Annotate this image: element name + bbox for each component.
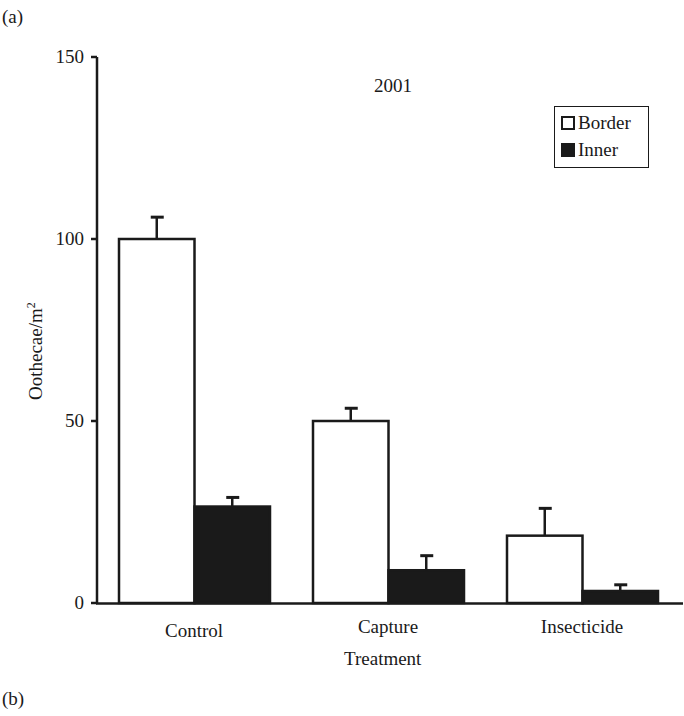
- bar-insecticide-border: [507, 536, 583, 603]
- legend-swatch-inner: [561, 143, 575, 157]
- legend-swatch-border: [561, 116, 575, 130]
- bar-capture-border: [313, 421, 389, 603]
- legend-label-border: Border: [578, 112, 631, 134]
- xtick-label-control: Control: [124, 620, 264, 642]
- bar-control-border: [119, 239, 195, 603]
- bar-capture-inner: [389, 570, 465, 603]
- xtick-label-capture: Capture: [318, 616, 458, 638]
- legend: Border Inner: [554, 106, 649, 168]
- legend-item-border: Border: [561, 111, 631, 135]
- bar-insecticide-inner: [583, 591, 659, 603]
- xtick-label-insecticide: Insecticide: [512, 616, 652, 638]
- legend-label-inner: Inner: [578, 139, 618, 161]
- bars-group: [119, 217, 658, 603]
- x-axis-title: Treatment: [344, 648, 421, 670]
- legend-item-inner: Inner: [561, 138, 618, 162]
- bar-control-inner: [195, 507, 271, 603]
